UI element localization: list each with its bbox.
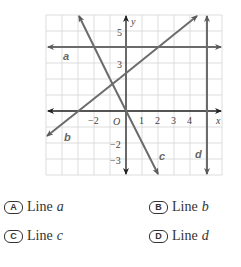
y-axis-label: y	[130, 16, 136, 27]
origin-label: O	[113, 116, 120, 127]
x-tick-label: 2	[155, 115, 160, 126]
choice-c-var: c	[57, 228, 63, 244]
line-c-label: c	[159, 150, 165, 162]
choice-a[interactable]: A Line a	[4, 199, 64, 215]
choice-b-var: b	[202, 199, 209, 215]
y-tick-label: 5	[117, 27, 122, 38]
line-a-label: a	[63, 50, 69, 62]
choice-a-prefix: Line	[27, 199, 53, 215]
choice-a-var: a	[57, 199, 64, 215]
choice-b-badge: B	[149, 201, 168, 214]
y-tick-label: 3	[117, 59, 122, 70]
choice-d-prefix: Line	[172, 228, 198, 244]
choice-b[interactable]: B Line b	[149, 199, 209, 215]
choice-d[interactable]: D Line d	[149, 228, 209, 244]
x-tick-label: 3	[171, 115, 176, 126]
x-tick-label: 1	[139, 115, 144, 126]
choice-d-badge: D	[149, 230, 168, 243]
line-b-label: b	[64, 131, 71, 143]
choice-a-badge: A	[4, 201, 23, 214]
line-d-label: d	[195, 148, 202, 160]
x-tick-label: 4	[187, 115, 192, 126]
x-tick-label: −2	[88, 115, 99, 126]
choice-c-prefix: Line	[27, 228, 53, 244]
choice-d-var: d	[202, 228, 209, 244]
y-tick-label: −2	[110, 139, 121, 150]
x-axis-label: x	[215, 115, 221, 126]
choice-b-prefix: Line	[172, 199, 198, 215]
coordinate-graph: y x O −2 1 2 3 4 5 3 −2 −3 a b c d	[0, 0, 241, 190]
y-tick-label: −3	[110, 155, 121, 166]
choice-c[interactable]: C Line c	[4, 228, 63, 244]
choice-c-badge: C	[4, 230, 23, 243]
